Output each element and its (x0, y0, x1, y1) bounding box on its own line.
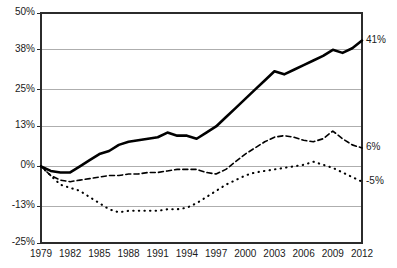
x-axis-label: 1991 (142, 248, 174, 259)
chart-plot (0, 0, 397, 268)
series-end-label: 41% (366, 34, 386, 45)
x-axis-label: 1985 (83, 248, 115, 259)
x-axis-label: 2003 (258, 248, 290, 259)
series-line-top-solid (41, 41, 362, 173)
series-line-middle-dashed (41, 131, 362, 182)
x-axis-label: 2006 (288, 248, 320, 259)
y-axis-label: 0% (21, 159, 35, 170)
x-axis-label: 1997 (200, 248, 232, 259)
y-axis-label: -13% (12, 199, 35, 210)
x-axis-label: 1982 (54, 248, 86, 259)
y-axis-label: 25% (15, 83, 35, 94)
chart-container: 50%38%25%13%0%-13%-25% 19791982198519881… (0, 0, 397, 268)
y-axis-label: 38% (15, 43, 35, 54)
x-axis-label: 1979 (25, 248, 57, 259)
series-end-label: 6% (366, 141, 380, 152)
series-end-label: -5% (366, 175, 384, 186)
y-axis-label: 50% (15, 6, 35, 17)
x-axis-label: 1994 (171, 248, 203, 259)
x-axis-label: 2012 (346, 248, 378, 259)
series-line-bottom-dotted (41, 162, 362, 213)
x-axis-label: 1988 (113, 248, 145, 259)
plot-border (41, 13, 362, 243)
x-axis-label: 2009 (317, 248, 349, 259)
y-axis-label: -25% (12, 236, 35, 247)
y-axis-label: 13% (15, 119, 35, 130)
x-axis-label: 2000 (229, 248, 261, 259)
